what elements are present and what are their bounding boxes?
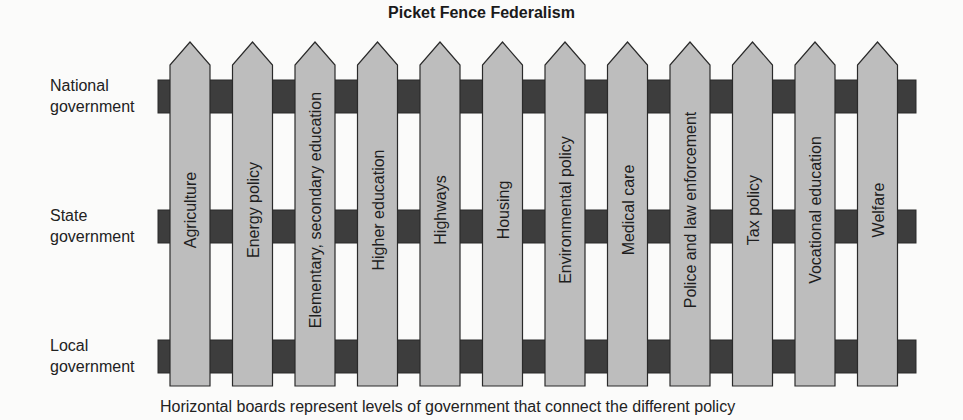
policy-label: Agriculture (182, 172, 199, 249)
policy-label: Highways (432, 175, 449, 244)
picket-fence: AgricultureEnergy policyElementary, seco… (0, 0, 963, 420)
picket: Highways (420, 42, 460, 386)
policy-label: Welfare (870, 182, 887, 237)
policy-label: Vocational education (807, 136, 824, 284)
picket: Police and law enforcement (670, 42, 710, 386)
picket: Tax policy (733, 42, 773, 386)
policy-label: Elementary, secondary education (307, 92, 324, 328)
policy-label: Police and law enforcement (682, 111, 699, 308)
policy-label: Tax policy (745, 175, 762, 245)
picket: Environmental policy (545, 42, 585, 386)
picket: Medical care (608, 42, 648, 386)
picket: Elementary, secondary education (295, 42, 335, 386)
picket: Energy policy (233, 42, 273, 386)
policy-label: Environmental policy (557, 136, 574, 284)
picket: Housing (483, 42, 523, 386)
picket: Welfare (858, 42, 898, 386)
policy-label: Energy policy (245, 162, 262, 258)
policy-label: Medical care (620, 165, 637, 256)
policy-label: Housing (495, 181, 512, 240)
policy-label: Higher education (370, 150, 387, 271)
diagram-caption: Horizontal boards represent levels of go… (160, 398, 735, 416)
picket: Vocational education (795, 42, 835, 386)
picket: Agriculture (170, 42, 210, 386)
picket: Higher education (358, 42, 398, 386)
